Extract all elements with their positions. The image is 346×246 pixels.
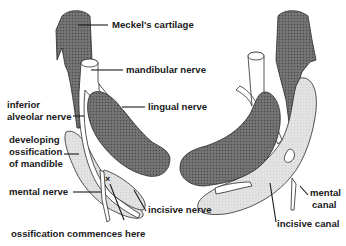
label-developing-1: developing bbox=[9, 134, 60, 145]
leader-mental-canal bbox=[300, 186, 308, 195]
label-inferior-alveolar-1: inferior bbox=[7, 99, 40, 110]
label-mental-canal-1: mental bbox=[310, 187, 341, 198]
label-ossification-commences: ossification commences here bbox=[11, 228, 145, 239]
label-lingual-nerve: lingual nerve bbox=[148, 101, 207, 112]
mandibular-nerve-right-top bbox=[248, 52, 264, 60]
label-incisive-nerve: incisive nerve bbox=[148, 204, 211, 215]
mandibular-nerve-left-top bbox=[81, 59, 98, 67]
label-incisive-canal: incisive canal bbox=[277, 218, 339, 229]
label-mental-nerve: mental nerve bbox=[9, 186, 68, 197]
label-meckels-cartilage: Meckel's cartilage bbox=[112, 19, 194, 30]
label-developing-2: ossification bbox=[9, 146, 62, 157]
mandible-development-diagram: Meckel's cartilage mandibular nerve ling… bbox=[0, 0, 346, 246]
label-developing-3: of mandible bbox=[9, 158, 63, 169]
label-mandibular-nerve: mandibular nerve bbox=[126, 64, 206, 75]
ossification-start-marker: × bbox=[105, 174, 110, 184]
label-inferior-alveolar-2: alveolar nerve bbox=[7, 111, 72, 122]
label-mental-canal-2: canal bbox=[312, 199, 337, 210]
